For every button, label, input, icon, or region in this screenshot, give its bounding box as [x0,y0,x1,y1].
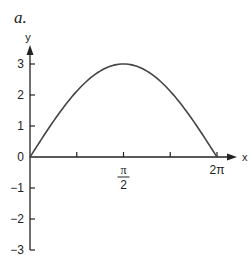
x-axis-label: x [242,151,248,163]
y-tick-label: −1 [10,181,24,195]
curve [30,64,217,157]
x-tick-label: 2π [210,163,225,177]
y-tick-label: −2 [10,212,24,226]
y-axis-label: y [25,31,31,43]
x-tick-label-denominator: 2 [120,178,127,192]
x-axis-arrow-icon [227,154,237,161]
chart-plot: yx−3−2−10123π22π [0,0,250,258]
y-tick-label: −3 [10,243,24,257]
y-tick-label: 0 [17,150,24,164]
y-axis-arrow-icon [27,45,34,55]
y-tick-label: 3 [17,57,24,71]
x-tick-label-numerator: π [120,163,126,177]
curve-path [30,64,217,157]
y-tick-label: 2 [17,88,24,102]
y-tick-label: 1 [17,119,24,133]
